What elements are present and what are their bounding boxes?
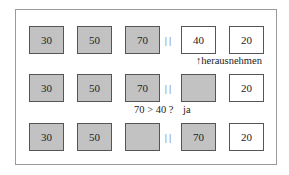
box-value: 50 (89, 131, 100, 143)
box-value: 20 (241, 82, 252, 94)
row1-box3: 70 (125, 26, 160, 54)
box-value: 30 (41, 34, 52, 46)
box-value: 20 (241, 131, 252, 143)
comparison-annotation: 70 > 40 ? (134, 104, 173, 115)
box-value: 30 (41, 82, 52, 94)
row1-separator: || (164, 26, 174, 54)
box-value: 70 (137, 34, 148, 46)
row2-box2: 50 (77, 74, 112, 102)
row3-box4: 70 (181, 123, 216, 151)
box-value: 40 (193, 34, 204, 46)
box-value: 50 (89, 82, 100, 94)
box-value: 70 (193, 131, 204, 143)
box-value: 50 (89, 34, 100, 46)
row3-box3 (125, 123, 160, 151)
row3-box2: 50 (77, 123, 112, 151)
row3-separator: || (164, 123, 174, 151)
box-value: 20 (241, 34, 252, 46)
row1-box2: 50 (77, 26, 112, 54)
row3-box1: 30 (29, 123, 64, 151)
box-value: 30 (41, 131, 52, 143)
row2-separator: || (164, 74, 174, 102)
box-value: 70 (137, 82, 148, 94)
row1-box1: 30 (29, 26, 64, 54)
row2-box5: 20 (229, 74, 264, 102)
comparison-answer: ja (183, 104, 191, 115)
row1-box4: 40 (181, 26, 216, 54)
remove-annotation: ↑herausnehmen (196, 55, 262, 66)
row2-box1: 30 (29, 74, 64, 102)
row2-box3: 70 (125, 74, 160, 102)
row2-box4 (181, 74, 216, 102)
row1-box5: 20 (229, 26, 264, 54)
row3-box5: 20 (229, 123, 264, 151)
